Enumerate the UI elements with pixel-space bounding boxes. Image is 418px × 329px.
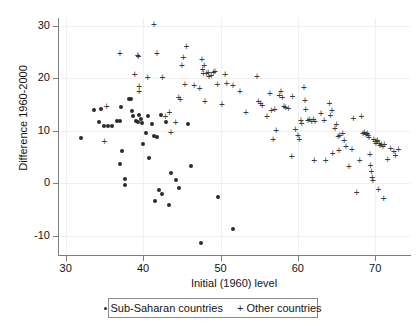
gridline-vertical bbox=[66, 18, 67, 254]
data-point-plus bbox=[222, 71, 229, 78]
x-tick-mark bbox=[66, 256, 67, 261]
data-point-dot bbox=[119, 105, 123, 109]
data-point-dot bbox=[110, 124, 114, 128]
data-point-dot bbox=[79, 136, 83, 140]
gridline-horizontal bbox=[58, 78, 410, 79]
data-point-plus bbox=[181, 81, 188, 88]
x-tick-label: 60 bbox=[278, 262, 318, 274]
data-point-plus bbox=[202, 98, 209, 105]
data-point-plus bbox=[212, 68, 219, 75]
data-point-dot bbox=[92, 108, 96, 112]
gridline-horizontal bbox=[58, 183, 410, 184]
data-point-plus bbox=[177, 96, 184, 103]
x-tick-mark bbox=[375, 256, 376, 261]
data-point-plus bbox=[366, 151, 373, 158]
x-tick-label: 30 bbox=[46, 262, 86, 274]
data-point-plus bbox=[289, 93, 296, 100]
data-point-plus bbox=[345, 163, 352, 170]
data-point-plus bbox=[131, 71, 138, 78]
data-point-plus bbox=[159, 74, 166, 81]
data-point-dot bbox=[140, 121, 144, 125]
data-point-plus bbox=[333, 121, 340, 128]
chart-legend: Sub-Saharan countries + Other countries bbox=[108, 298, 318, 318]
data-point-dot bbox=[160, 192, 164, 196]
data-point-dot bbox=[123, 183, 127, 187]
data-point-plus bbox=[271, 106, 278, 113]
data-point-plus bbox=[353, 189, 360, 196]
data-point-plus bbox=[135, 53, 142, 60]
gridline-horizontal bbox=[58, 236, 410, 237]
data-point-dot bbox=[186, 122, 190, 126]
data-point-dot bbox=[153, 199, 157, 203]
data-point-dot bbox=[131, 114, 135, 118]
data-point-dot bbox=[189, 164, 193, 168]
data-point-plus bbox=[288, 153, 295, 160]
data-point-plus bbox=[253, 73, 260, 80]
data-point-dot bbox=[102, 124, 106, 128]
legend-label-sub-saharan: Sub-Saharan countries bbox=[110, 302, 223, 314]
data-point-plus bbox=[267, 90, 274, 97]
gridline-vertical bbox=[143, 18, 144, 254]
data-point-dot bbox=[144, 131, 148, 135]
x-tick-mark bbox=[143, 256, 144, 261]
data-point-plus bbox=[183, 43, 190, 50]
data-point-plus bbox=[311, 118, 318, 125]
data-point-plus bbox=[322, 157, 329, 164]
data-point-dot bbox=[106, 124, 110, 128]
data-point-plus bbox=[395, 146, 402, 153]
data-point-plus bbox=[356, 157, 363, 164]
legend-entry-sub-saharan: Sub-Saharan countries bbox=[104, 302, 223, 314]
x-axis-line bbox=[58, 255, 411, 256]
data-point-plus bbox=[279, 94, 286, 101]
x-tick-mark bbox=[221, 256, 222, 261]
scatter-plot-figure: -1001020303040506070 Difference 1960-200… bbox=[0, 0, 418, 329]
x-tick-mark bbox=[298, 256, 299, 261]
x-axis-title: Initial (1960) level bbox=[58, 277, 410, 289]
data-point-plus bbox=[229, 82, 236, 89]
data-point-plus bbox=[259, 102, 266, 109]
data-point-plus bbox=[335, 147, 342, 154]
data-point-plus bbox=[296, 136, 303, 143]
data-point-dot bbox=[146, 114, 150, 118]
data-point-plus bbox=[301, 84, 308, 91]
data-point-dot bbox=[177, 186, 181, 190]
data-point-plus bbox=[236, 88, 243, 95]
data-point-plus bbox=[384, 156, 391, 163]
data-point-plus bbox=[311, 157, 318, 164]
plot-area bbox=[58, 18, 410, 254]
data-point-dot bbox=[199, 241, 203, 245]
data-point-plus bbox=[369, 177, 376, 184]
data-point-plus bbox=[103, 103, 110, 110]
data-point-dot bbox=[141, 142, 145, 146]
y-tick-mark bbox=[53, 26, 58, 27]
legend-label-other: Other countries bbox=[246, 302, 321, 314]
data-point-dot bbox=[169, 171, 173, 175]
data-point-dot bbox=[123, 177, 127, 181]
data-point-plus bbox=[285, 105, 292, 112]
data-point-dot bbox=[174, 178, 178, 182]
data-point-plus bbox=[302, 106, 309, 113]
data-point-plus bbox=[358, 113, 365, 120]
data-point-dot bbox=[150, 122, 154, 126]
data-point-dot bbox=[118, 119, 122, 123]
data-point-plus bbox=[350, 115, 357, 122]
data-point-plus bbox=[380, 195, 387, 202]
data-point-plus bbox=[196, 85, 203, 92]
data-point-plus bbox=[166, 109, 173, 116]
gridline-vertical bbox=[221, 18, 222, 254]
data-point-dot bbox=[120, 149, 124, 153]
x-tick-label: 50 bbox=[201, 262, 241, 274]
data-point-plus bbox=[154, 50, 161, 57]
x-tick-label: 40 bbox=[123, 262, 163, 274]
data-point-plus bbox=[328, 107, 335, 114]
data-point-plus bbox=[375, 186, 382, 193]
dot-marker-icon bbox=[104, 307, 107, 310]
y-tick-mark bbox=[53, 183, 58, 184]
data-point-plus bbox=[270, 136, 277, 143]
data-point-dot bbox=[129, 97, 133, 101]
gridline-horizontal bbox=[58, 131, 410, 132]
y-tick-label: -10 bbox=[20, 229, 50, 241]
data-point-plus bbox=[243, 109, 250, 116]
data-point-dot bbox=[216, 195, 220, 199]
data-point-dot bbox=[97, 120, 101, 124]
